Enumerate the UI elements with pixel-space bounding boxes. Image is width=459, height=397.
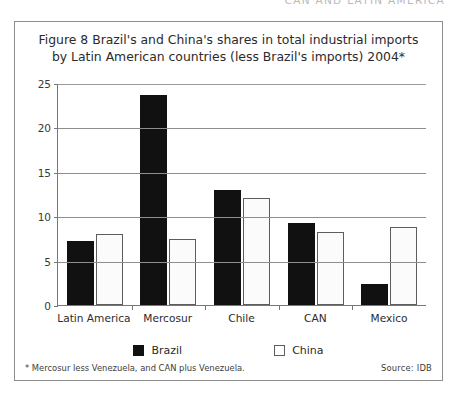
x-axis-category-label: Latin America: [57, 312, 131, 324]
y-axis-tick-label: 0: [44, 300, 51, 312]
figure-title-line-2: by Latin American countries (less Brazil…: [31, 49, 426, 66]
x-axis-tick-mark: [132, 305, 133, 310]
bar-brazil[interactable]: [361, 284, 388, 305]
running-header: CAN AND LATIN AMERICA: [285, 0, 445, 6]
y-axis-tick-mark: [54, 128, 58, 129]
bar-brazil[interactable]: [288, 223, 315, 305]
x-axis-category-label: Mexico: [352, 312, 426, 324]
y-axis-tick-label: 15: [38, 167, 51, 179]
chart-gridline: [58, 84, 426, 85]
legend-label: Brazil: [151, 344, 182, 357]
x-axis-category-labels: Latin AmericaMercosurChileCANMexico: [57, 312, 426, 324]
x-axis-tick-mark: [205, 305, 206, 310]
legend-item-brazil[interactable]: Brazil: [133, 344, 182, 357]
bar-china[interactable]: [169, 239, 196, 305]
y-axis-tick-label: 20: [38, 122, 51, 134]
bar-china[interactable]: [390, 227, 417, 305]
figure-title: Figure 8 Brazil's and China's shares in …: [31, 32, 426, 65]
chart-plot-area: 0510152025 Latin AmericaMercosurChileCAN…: [15, 84, 444, 336]
y-axis-tick-mark: [54, 173, 58, 174]
bar-brazil[interactable]: [214, 190, 241, 305]
bar-brazil[interactable]: [67, 241, 94, 305]
y-axis-tick-mark: [54, 262, 58, 263]
chart-gridline: [58, 128, 426, 129]
chart-gridline: [58, 262, 426, 263]
y-axis-tick-mark: [54, 84, 58, 85]
figure-footer: * Mercosur less Venezuela, and CAN plus …: [25, 363, 432, 373]
bar-china[interactable]: [243, 198, 270, 305]
x-axis-category-label: Chile: [205, 312, 279, 324]
bar-group: [352, 84, 426, 305]
y-axis-tick-labels: 0510152025: [15, 84, 57, 306]
bar-groups: [58, 84, 426, 305]
chart-gridline: [58, 217, 426, 218]
x-axis-tick-mark: [279, 305, 280, 310]
x-axis-category-label: CAN: [278, 312, 352, 324]
bar-china[interactable]: [96, 234, 123, 305]
bar-brazil[interactable]: [140, 95, 167, 305]
bar-group: [205, 84, 279, 305]
chart-gridline: [58, 173, 426, 174]
legend-item-china[interactable]: China: [274, 344, 323, 357]
bar-china[interactable]: [317, 232, 344, 305]
chart-axes: [57, 84, 426, 306]
figure-footnote: * Mercosur less Venezuela, and CAN plus …: [25, 363, 245, 373]
y-axis-tick-label: 5: [44, 256, 51, 268]
bar-group: [279, 84, 353, 305]
bar-group: [132, 84, 206, 305]
legend-swatch-china: [274, 345, 285, 356]
bar-group: [58, 84, 132, 305]
y-axis-tick-mark: [54, 306, 58, 307]
legend-swatch-brazil: [133, 345, 144, 356]
figure-source: Source: IDB: [381, 363, 432, 373]
chart-legend: BrazilChina: [15, 344, 442, 357]
legend-label: China: [292, 344, 323, 357]
figure-title-line-1: Figure 8 Brazil's and China's shares in …: [31, 32, 426, 49]
x-axis-tick-mark: [352, 305, 353, 310]
x-axis-category-label: Mercosur: [131, 312, 205, 324]
figure-frame: Figure 8 Brazil's and China's shares in …: [14, 21, 443, 381]
y-axis-tick-mark: [54, 217, 58, 218]
y-axis-tick-label: 10: [38, 211, 51, 223]
y-axis-tick-label: 25: [38, 78, 51, 90]
